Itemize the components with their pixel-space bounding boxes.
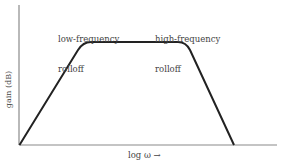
low-frequency-label-line2: rolloff bbox=[58, 64, 119, 74]
high-frequency-label-line2: rolloff bbox=[155, 64, 220, 74]
high-frequency-label-line1: high-frequency bbox=[155, 34, 220, 44]
x-axis-label: log ω → bbox=[128, 150, 161, 160]
low-frequency-label-line1: low-frequency bbox=[58, 34, 119, 44]
high-frequency-label: high-frequency rolloff bbox=[155, 14, 220, 94]
bandpass-gain-diagram: low-frequency rolloff high-frequency rol… bbox=[0, 0, 282, 164]
y-axis-label: gain (dB) bbox=[4, 70, 13, 110]
low-frequency-label: low-frequency rolloff bbox=[58, 14, 119, 94]
diagram-graphic bbox=[0, 0, 282, 164]
